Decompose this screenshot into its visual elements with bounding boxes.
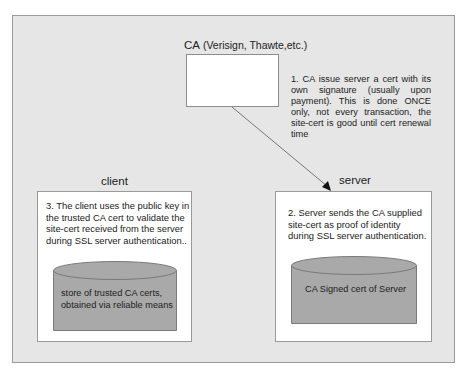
server-text-line: site-cert as proof of identity <box>288 219 426 231</box>
server-label: server <box>339 174 371 186</box>
server-text-line: 2. Server sends the CA supplied <box>288 207 426 219</box>
store-label-line: obtained via reliable means <box>61 300 173 312</box>
client-text-line: the trusted CA cert to validate the <box>46 212 189 224</box>
server-description: 2. Server sends the CA supplied site-cer… <box>288 207 426 242</box>
store-label-line: store of trusted CA certs, <box>61 288 173 300</box>
client-description: 3. The client uses the public key in the… <box>46 200 189 246</box>
client-text-line: 3. The client uses the public key in <box>46 200 189 212</box>
trusted-ca-store-cylinder: store of trusted CA certs, obtained via … <box>53 261 177 332</box>
server-cert-cylinder: CA Signed cert of Server <box>291 256 417 325</box>
client-text-line: during SSL server authentication.. <box>46 235 189 247</box>
server-cert-label: CA Signed cert of Server <box>305 284 406 296</box>
client-label: client <box>101 175 128 187</box>
trusted-ca-store-label: store of trusted CA certs, obtained via … <box>61 288 173 311</box>
client-text-line: site-cert received from the server <box>46 223 189 235</box>
server-text-line: during SSL server authentication. <box>288 230 426 242</box>
store-label-line: CA Signed cert of Server <box>305 284 406 296</box>
